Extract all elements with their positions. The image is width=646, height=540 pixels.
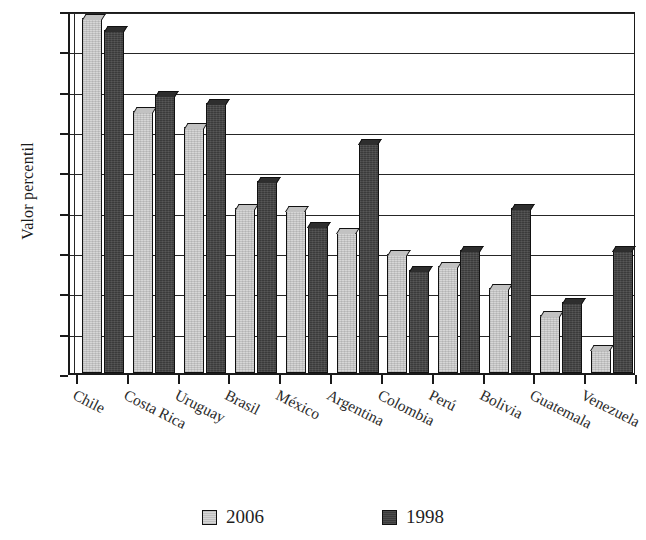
light-gray-swatch [202,510,217,525]
bar-méxico-2006 [286,210,306,373]
bar-méxico-1998 [308,226,328,373]
bar-top-cap [336,228,360,234]
legend-label: 2006 [226,506,264,528]
y-axis-tick-mark [60,93,68,95]
bar-perú-2006 [438,266,458,373]
bar-uruguay-2006 [184,127,204,373]
x-axis-label-méxico: México [273,386,323,424]
x-axis-label-brasil: Brasil [222,386,263,419]
x-axis-label-colombia: Colombia [375,386,438,430]
x-axis-tick-mark [533,375,535,384]
legend-label: 1998 [406,506,444,528]
bar-top-cap [104,26,128,32]
y-axis-tick-mark [60,214,68,216]
x-axis-tick-mark [76,375,78,384]
bar-perú-1998 [460,250,480,373]
bar-top-cap [133,107,157,113]
plot-area [68,12,635,375]
bar-brasil-1998 [257,181,277,373]
x-axis-tick-marks [68,375,635,385]
bar-top-cap [612,246,636,252]
bar-guatemala-1998 [562,302,582,373]
bar-top-cap [409,266,433,272]
bar-top-cap [562,298,586,304]
y-axis-tick-mark [60,375,68,377]
x-axis-label-bolivia: Bolivia [476,386,525,423]
y-axis-tick-mark [60,12,68,14]
chart-legend: 20061998 [0,500,646,534]
bar-top-cap [235,204,259,210]
bar-venezuela-2006 [591,349,611,373]
x-axis-tick-mark [330,375,332,384]
x-axis-tick-mark [279,375,281,384]
bar-brasil-2006 [235,208,255,373]
bar-venezuela-1998 [613,250,633,373]
x-axis-tick-mark [381,375,383,384]
legend-item-2006: 2006 [202,506,264,528]
bar-top-cap [540,311,564,317]
bar-chile-1998 [104,30,124,373]
bar-chart-figure: Valor percentil 0102030405060708090 Chil… [0,0,646,540]
bar-costa-rica-2006 [133,111,153,373]
x-axis-label-argentina: Argentina [324,386,387,430]
y-axis-tick-mark [60,52,68,54]
bar-uruguay-1998 [206,103,226,373]
bar-top-cap [460,246,484,252]
bar-chile-2006 [82,18,102,373]
bar-top-cap [285,206,309,212]
bars-layer [70,13,634,373]
x-axis-tick-mark [584,375,586,384]
y-axis-tick-mark [60,335,68,337]
x-axis-tick-mark [127,375,129,384]
legend-item-1998: 1998 [382,506,444,528]
x-axis-tick-mark [432,375,434,384]
x-axis-tick-mark [228,375,230,384]
x-axis-label-chile: Chile [70,386,108,417]
x-axis-tick-mark [178,375,180,384]
bar-top-cap [438,262,462,268]
bar-guatemala-2006 [540,315,560,373]
bar-top-cap [590,345,614,351]
bar-top-cap [307,222,331,228]
y-axis-tick-mark [60,254,68,256]
bar-bolivia-1998 [511,208,531,373]
bar-costa-rica-1998 [155,95,175,373]
bar-argentina-1998 [359,143,379,373]
x-axis-tick-mark [635,375,637,384]
bar-top-cap [489,284,513,290]
bar-top-cap [257,177,281,183]
bar-top-cap [206,99,230,105]
y-axis-tick-mark [60,294,68,296]
bar-top-cap [184,123,208,129]
bar-top-cap [511,204,535,210]
x-axis-category-labels: ChileCosta RicaUruguayBrasilMéxicoArgent… [0,386,646,481]
bar-colombia-2006 [387,254,407,373]
x-axis-tick-mark [483,375,485,384]
bar-bolivia-2006 [489,288,509,373]
bar-top-cap [155,91,179,97]
bar-top-cap [358,139,382,145]
y-axis-tick-mark [60,133,68,135]
y-axis-tick-mark [60,173,68,175]
bar-top-cap [82,14,106,20]
bar-colombia-1998 [409,270,429,373]
dark-gray-swatch [382,510,397,525]
bar-argentina-2006 [337,232,357,373]
bar-top-cap [387,250,411,256]
